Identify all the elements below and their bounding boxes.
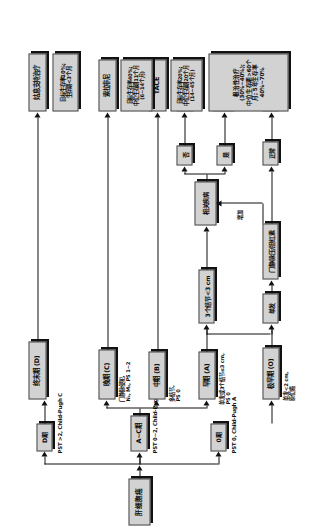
node-yes: 是 — [216, 145, 232, 165]
connector-to-branch-0 — [218, 457, 219, 465]
node-sorafenib-outcome: 目标生存率40%; 中位生存期11个月 (6~14个月) — [120, 59, 152, 111]
connector-loopback-v — [206, 334, 270, 335]
figure-viewport: 肝细胞癌 D期 A~C期 0期 PST >2, Child-Pugh C PST… — [0, 0, 320, 531]
connector-to-stage-0 — [271, 405, 272, 423]
arrow-to-stage-0 — [268, 400, 274, 405]
node-stage-0: 极早期 (O) — [262, 347, 279, 399]
connector-branch-spine — [44, 464, 218, 465]
node-three-nodules: 3个结节<3 cm — [198, 269, 214, 323]
arrow-staged-palliative — [34, 112, 40, 117]
arrow-to-stage-b — [153, 400, 159, 405]
connector-ac-stem — [139, 408, 140, 415]
label-stage-c-detail: 门静脉侵犯, N₁, M₁, PS 1~2 — [118, 339, 130, 401]
node-stage-c: 晚期 (C) — [98, 349, 115, 399]
arrow-to-stage-c — [103, 400, 109, 405]
arrow-portal-normal — [268, 166, 274, 171]
arrow-normal-resection — [268, 112, 274, 117]
connector-staged-palliative — [37, 117, 38, 341]
arrow-stageb-tace — [154, 112, 160, 117]
arrow-to-stage-a — [203, 400, 209, 405]
connector-yes-transplant — [224, 117, 225, 145]
connector-portal-normal — [271, 171, 272, 223]
label-stage-b-detail: 多结节, PS 0 — [168, 351, 180, 401]
connector-to-stage-b — [156, 405, 157, 409]
node-stage-d: 终末期 (D) — [28, 341, 46, 399]
node-tace-outcome: 目标生存率20%; 中位生存期20个月 (14~45个月) — [170, 59, 202, 111]
node-stage-a: 早期 (A) — [198, 351, 215, 399]
connector-assoc-no — [184, 171, 185, 175]
node-root: 肝细胞癌 — [128, 478, 150, 525]
arrow-root-out — [136, 465, 142, 470]
connector-to-branch-ac — [139, 457, 140, 465]
node-branch-0: 0期 — [210, 423, 226, 451]
connector-assoc-fan — [184, 174, 224, 175]
connector-assoc-stem — [206, 174, 207, 181]
connector-branchd-staged — [44, 405, 45, 423]
label-stage-a-detail: 单发或3个结节≤3 cm, PS 0 — [218, 332, 230, 404]
label-criteria-d: PST >2, Child-Pugh C — [56, 383, 62, 453]
arrow-branchd-staged — [41, 400, 47, 405]
arrow-yes-transplant — [221, 112, 227, 117]
connector-assoc-yes — [224, 171, 225, 175]
arrow-nodules-assoc — [203, 226, 209, 231]
connector-nodules-assoc — [206, 231, 207, 269]
node-normal: 正常 — [262, 141, 278, 165]
node-branch-ac: A~C期 — [130, 415, 147, 451]
connector-stagec-sorafenib — [107, 117, 108, 349]
connector-to-stage-c — [106, 405, 107, 409]
connector-increase-h — [262, 203, 263, 223]
arrow-assoc-yes — [221, 166, 227, 171]
arrow-no-rfa — [181, 112, 187, 117]
arrow-single-portal — [268, 280, 274, 285]
node-sorafenib: 索拉非尼 — [98, 59, 116, 111]
node-portal-bili: 门静脉压/胆红素 — [262, 223, 278, 279]
arrow-to-branch-0 — [215, 452, 221, 457]
connector-loopback-h — [271, 329, 272, 335]
node-palliative-outcome: 目标生存率10%; 生存期<3个月 — [52, 53, 78, 111]
node-no: 否 — [176, 145, 192, 165]
node-curative-outcome: 根治性治疗 (30%~40%); 中位生存期>60个月; 5年生存率40%~70… — [208, 53, 288, 111]
connector-to-branch-d — [44, 457, 45, 465]
node-palliative: 姑息支持治疗 — [28, 53, 46, 111]
arrow-assoc-no — [181, 166, 187, 171]
node-stage-b: 中期 (B) — [148, 351, 165, 399]
label-increased: 增加 — [236, 189, 242, 219]
connector-to-stage-a — [206, 405, 207, 409]
arrow-to-branch-d — [41, 452, 47, 457]
label-stage-0-detail: 单发<2 cm, 原位癌 — [282, 348, 294, 400]
connector-single-portal — [271, 285, 272, 293]
label-criteria-0: PST 0, Child-Pugh A — [230, 373, 236, 453]
node-branch-d: D期 — [36, 423, 52, 451]
connector-no-rfa — [184, 117, 185, 145]
connector-stageb-tace — [157, 117, 158, 351]
flowchart-canvas: 肝细胞癌 D期 A~C期 0期 PST >2, Child-Pugh C PST… — [0, 0, 320, 531]
node-single: 单发 — [262, 293, 278, 323]
arrow-increase-up — [216, 201, 221, 207]
connector-normal-resection — [271, 117, 272, 141]
connector-root-out — [139, 470, 140, 478]
connector-loopback-top — [206, 329, 207, 335]
arrow-stagec-sorafenib — [104, 112, 110, 117]
node-assoc-disease: 相关疾病 — [194, 181, 216, 225]
